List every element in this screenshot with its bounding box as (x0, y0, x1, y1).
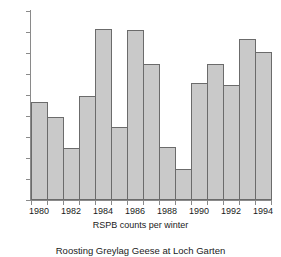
bar (255, 52, 272, 200)
x-axis-tick (127, 201, 128, 205)
bar (79, 96, 96, 200)
figure-caption: Roosting Greylag Geese at Loch Garten (0, 245, 281, 257)
x-axis-tick (175, 201, 176, 205)
x-axis-tick-label: 1982 (61, 206, 81, 216)
bar (175, 169, 192, 200)
x-axis-tick (95, 201, 96, 205)
y-axis-tick (26, 179, 30, 180)
y-axis-tick (26, 137, 30, 138)
y-axis-tick (26, 95, 30, 96)
x-axis-tick (143, 201, 144, 205)
bar (239, 39, 256, 200)
bar (159, 147, 176, 200)
x-axis-tick-labels: 19801982198419861988199019921994 (31, 206, 271, 218)
y-axis-tick (26, 158, 30, 159)
x-axis-tick (111, 201, 112, 205)
x-axis-tick-label: 1984 (93, 206, 113, 216)
x-axis-title: RSPB counts per winter (0, 220, 281, 231)
y-axis-tick (26, 32, 30, 33)
x-axis-tick (159, 201, 160, 205)
bar (63, 148, 80, 201)
bar-series (31, 11, 271, 200)
x-axis-tick (47, 201, 48, 205)
x-axis-tick (63, 201, 64, 205)
bar (31, 102, 48, 200)
x-axis-tick-label: 1988 (157, 206, 177, 216)
y-axis-tick (26, 11, 30, 12)
bar (95, 29, 112, 200)
x-axis-tick-label: 1986 (125, 206, 145, 216)
bar (127, 30, 144, 200)
x-axis-tick (239, 201, 240, 205)
y-axis-tick (26, 116, 30, 117)
x-axis-tick (255, 201, 256, 205)
x-axis-tick (223, 201, 224, 205)
y-axis-tick (26, 74, 30, 75)
bar (191, 83, 208, 200)
bar (223, 85, 240, 201)
y-axis-tick (26, 200, 30, 201)
bar-chart-figure: 180016001400120010008006004002000 198019… (0, 0, 281, 257)
y-axis-tick (26, 53, 30, 54)
bar (47, 117, 64, 200)
x-axis-tick-label: 1980 (29, 206, 49, 216)
bar (207, 64, 224, 201)
bar (111, 127, 128, 200)
x-axis-tick-label: 1990 (189, 206, 209, 216)
x-axis-tick (207, 201, 208, 205)
x-axis-tick (271, 201, 272, 205)
bar (143, 64, 160, 201)
x-axis-tick-label: 1992 (221, 206, 241, 216)
x-axis-tick (79, 201, 80, 205)
x-axis-tick (31, 201, 32, 205)
x-axis-tick-label: 1994 (253, 206, 273, 216)
plot-area (31, 11, 271, 200)
x-axis-tick (191, 201, 192, 205)
